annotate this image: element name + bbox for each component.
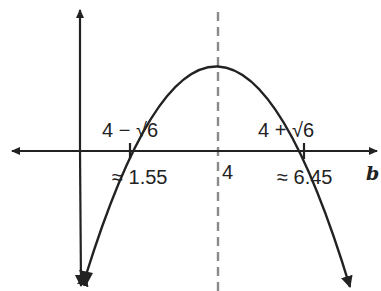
right-root-approx-label: ≈ 6.45	[277, 167, 332, 187]
right-root-exact-label: 4 + √6	[258, 120, 314, 140]
left-root-approx-label: ≈ 1.55	[112, 167, 167, 187]
vertical-axis-down	[80, 151, 81, 286]
vertex-b-label: 4	[222, 162, 233, 182]
left-root-exact-label: 4 − √6	[102, 120, 158, 140]
parabola-chart	[0, 0, 381, 291]
b-axis-label: b	[366, 164, 379, 183]
